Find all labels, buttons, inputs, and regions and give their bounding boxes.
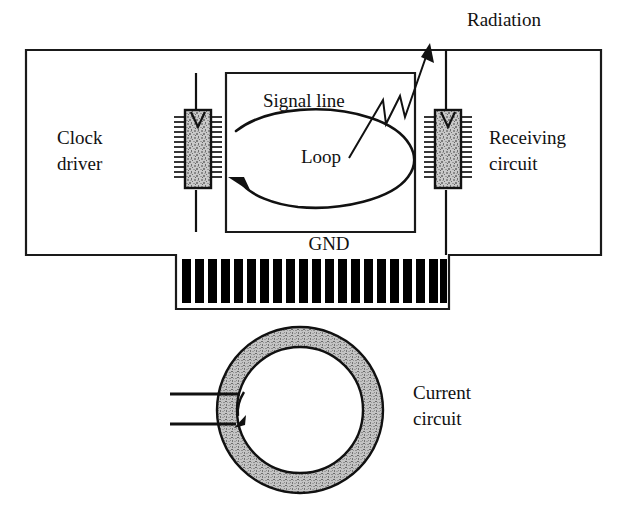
connector-bar	[351, 259, 360, 303]
clock-driver-ic-body	[185, 110, 211, 188]
clock-driver-label-line1: Clock	[57, 127, 103, 148]
clock-driver-label-line2: driver	[57, 153, 103, 174]
connector-bar	[429, 259, 438, 303]
signal-line-label: Signal line	[263, 90, 345, 111]
connector-bar	[247, 259, 256, 303]
figure-root: Radiation Signal line Loop GND Clock dri…	[0, 0, 618, 517]
connector-bar	[273, 259, 282, 303]
schematic-diagram: Radiation Signal line Loop GND Clock dri…	[0, 0, 618, 517]
connector-bar	[286, 259, 295, 303]
gnd-label: GND	[308, 233, 349, 254]
connector-bar	[440, 259, 447, 303]
receiving-circuit-label-line2: circuit	[489, 153, 538, 174]
receiving-circuit-label-line1: Receiving	[489, 127, 567, 148]
connector-bar	[325, 259, 334, 303]
connector-bar	[364, 259, 373, 303]
current-circuit-label-line1: Current	[413, 382, 472, 403]
current-circuit-label-line2: circuit	[413, 408, 462, 429]
connector-bar	[182, 259, 191, 303]
radiation-label: Radiation	[467, 9, 541, 30]
connector-bar	[299, 259, 308, 303]
connector-bar	[221, 259, 230, 303]
connector-bar	[208, 259, 217, 303]
connector-bar	[403, 259, 412, 303]
connector-bar	[416, 259, 425, 303]
connector-bar	[234, 259, 243, 303]
connector-bar	[390, 259, 399, 303]
connector-bar	[195, 259, 204, 303]
receiving-circuit-ic-body	[435, 110, 461, 188]
connector-bar	[260, 259, 269, 303]
ring-inner-circle	[237, 347, 363, 473]
connector-bar	[377, 259, 386, 303]
edge-connector	[182, 259, 447, 303]
loop-label: Loop	[301, 146, 341, 167]
current-loop-ring	[217, 327, 383, 493]
connector-bar	[338, 259, 347, 303]
connector-bar	[312, 259, 321, 303]
